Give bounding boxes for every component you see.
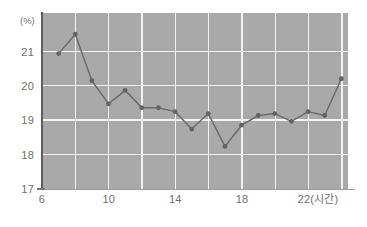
chart-canvas: 21 20 19 18 17 (%) 6 10 14 18 22(시간) <box>0 0 367 227</box>
plot-area-background <box>42 13 348 189</box>
data-point <box>306 109 311 114</box>
ytick-label-18: 18 <box>21 149 34 161</box>
ytick-label-17: 17 <box>21 183 34 195</box>
data-point <box>89 78 94 83</box>
ytick-label-21: 21 <box>21 46 34 58</box>
data-point <box>256 113 261 118</box>
data-point <box>56 51 61 56</box>
xtick-label-14: 14 <box>169 193 182 205</box>
data-point <box>173 109 178 114</box>
xtick-label-22-with-unit: 22(시간) <box>298 193 339 205</box>
data-point <box>239 123 244 128</box>
data-point <box>289 119 294 124</box>
ytick-label-20: 20 <box>21 80 34 92</box>
xtick-label-18: 18 <box>236 193 249 205</box>
data-point <box>223 144 228 149</box>
data-point <box>189 127 194 132</box>
xtick-label-10: 10 <box>102 193 115 205</box>
y-axis-unit-label: (%) <box>20 15 35 26</box>
data-point <box>123 88 128 93</box>
data-point <box>272 111 277 116</box>
xtick-label-6: 6 <box>39 193 45 205</box>
data-point <box>156 105 161 110</box>
data-point <box>139 105 144 110</box>
ytick-label-19: 19 <box>21 114 34 126</box>
data-point <box>339 76 344 81</box>
data-point <box>106 102 111 107</box>
line-chart-figure: 21 20 19 18 17 (%) 6 10 14 18 22(시간) <box>0 0 367 227</box>
data-point <box>73 32 78 37</box>
data-point <box>322 113 327 118</box>
data-point <box>206 111 211 116</box>
